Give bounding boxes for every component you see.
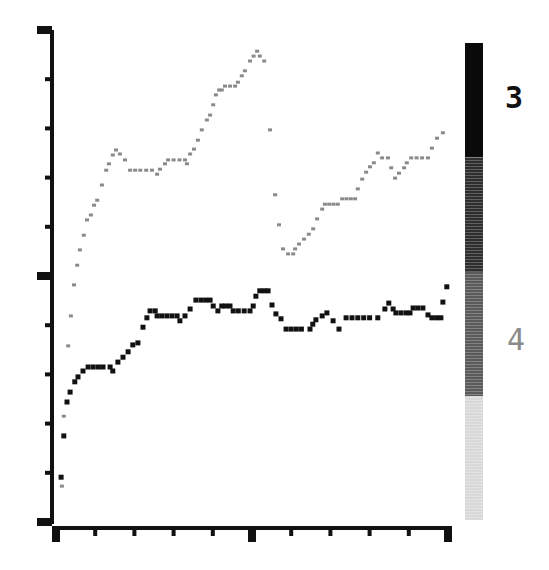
data-point <box>211 304 216 309</box>
data-point <box>293 247 297 250</box>
data-point <box>311 227 315 230</box>
data-point <box>420 156 424 159</box>
data-point <box>393 310 398 315</box>
data-point <box>438 315 443 320</box>
data-point <box>386 301 391 306</box>
y-major-tick <box>37 26 52 34</box>
y-minor-tick <box>45 77 52 81</box>
data-point <box>444 284 449 289</box>
data-point <box>141 325 146 330</box>
data-point <box>86 365 91 370</box>
data-point <box>310 322 315 327</box>
data-point <box>95 199 99 202</box>
x-minor-tick <box>407 528 411 536</box>
data-point <box>284 327 289 332</box>
x-major-tick <box>444 526 452 542</box>
axes <box>37 26 452 542</box>
colorbar-label-3: 3 <box>505 80 523 115</box>
data-point <box>66 344 70 347</box>
data-point <box>336 203 340 206</box>
data-point <box>429 315 434 320</box>
y-minor-tick <box>45 323 52 327</box>
data-point <box>177 318 182 323</box>
data-point <box>367 315 372 320</box>
data-point <box>144 169 148 172</box>
data-point <box>297 243 301 246</box>
data-point <box>302 238 306 241</box>
data-point <box>323 203 327 206</box>
colorbar <box>465 43 483 520</box>
colorbar-segment <box>465 43 483 158</box>
data-point <box>114 149 118 152</box>
data-point <box>257 288 262 293</box>
data-point <box>185 162 189 165</box>
data-point <box>69 314 73 317</box>
data-point <box>89 214 93 217</box>
data-point <box>368 165 372 168</box>
data-point <box>188 307 193 312</box>
data-point <box>441 131 445 134</box>
data-point <box>360 178 364 181</box>
data-point <box>262 60 266 63</box>
data-point <box>253 294 258 299</box>
y-minor-tick <box>45 225 52 229</box>
data-point <box>107 162 111 165</box>
data-point <box>382 307 387 312</box>
x-minor-tick <box>368 528 372 536</box>
x-major-tick <box>248 526 256 542</box>
data-point <box>393 177 397 180</box>
data-point <box>327 203 331 206</box>
data-point <box>376 152 380 155</box>
data-point <box>397 172 401 175</box>
data-point <box>155 173 159 176</box>
x-minor-tick <box>211 528 215 536</box>
data-point <box>118 153 122 156</box>
data-point <box>440 300 445 305</box>
data-point <box>337 327 342 332</box>
data-point <box>355 315 360 320</box>
data-point <box>430 147 434 150</box>
y-minor-tick <box>45 126 52 130</box>
data-point <box>435 137 439 140</box>
data-point <box>236 81 240 84</box>
data-point <box>172 158 176 161</box>
data-point <box>211 103 215 106</box>
data-point <box>170 313 175 318</box>
data-point <box>72 283 76 286</box>
data-point <box>205 119 209 122</box>
data-point <box>375 315 380 320</box>
data-point <box>130 342 135 347</box>
data-point <box>196 139 200 142</box>
x-major-tick <box>52 526 60 542</box>
data-point <box>199 298 204 303</box>
data-point <box>159 313 164 318</box>
y-minor-tick <box>45 422 52 426</box>
data-point <box>313 317 318 322</box>
series-3 <box>59 284 450 479</box>
data-point <box>223 304 228 309</box>
data-point <box>96 365 101 370</box>
data-point <box>349 197 353 200</box>
data-point <box>208 114 212 117</box>
data-point <box>240 74 244 77</box>
data-point <box>434 315 439 320</box>
data-point <box>372 161 376 164</box>
data-point <box>273 311 278 316</box>
data-point <box>183 158 187 161</box>
data-point <box>389 166 393 169</box>
data-point <box>411 306 416 311</box>
data-point <box>111 154 115 157</box>
data-point <box>344 315 349 320</box>
data-point <box>315 217 319 220</box>
data-point <box>266 288 271 293</box>
data-point <box>252 55 256 58</box>
x-minor-tick <box>172 528 176 536</box>
data-point <box>255 50 259 53</box>
x-minor-tick <box>132 528 136 536</box>
data-point <box>144 315 149 320</box>
data-point <box>61 433 66 438</box>
data-point <box>166 158 170 161</box>
data-point <box>242 308 247 313</box>
data-point <box>82 234 86 237</box>
data-point <box>399 310 404 315</box>
